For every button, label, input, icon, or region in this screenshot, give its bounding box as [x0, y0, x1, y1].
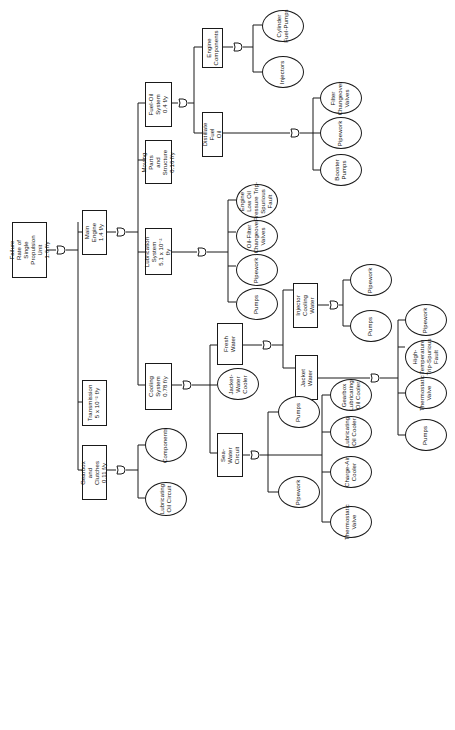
basic-event-injectors: Injectors: [262, 56, 304, 88]
injector-cooling-water-box: Injector Cooling Water: [293, 283, 318, 328]
jacket-water-box: Jacket Water: [295, 355, 318, 400]
basic-event-charge-air-cooler: Charge-Air Cooler: [330, 456, 372, 488]
or-gate-icon: [233, 42, 243, 52]
jacket-water-label: Jacket Water: [300, 367, 314, 388]
transmission-box: Transmission 5 x 10⁻² f/y: [82, 380, 107, 426]
engine-components-label: Engine Components: [206, 30, 220, 65]
sea-water-circuit-label: Sea-Water Circuit: [220, 443, 241, 467]
transmission-label: Transmission 5 x 10⁻² f/y: [88, 385, 102, 422]
moving-parts-box: Moving Parts and Structure 0.16 f/y: [145, 140, 172, 184]
basic-event-thermostatic-valve-jacket: Thermostatic Valve: [405, 377, 447, 409]
basic-event-lubricating-oil-cooler: Lubricating Oil Cooler: [330, 416, 372, 448]
basic-event-filter-changeover-valves: Filter Changeover Valves: [320, 82, 362, 114]
basic-event-pumps-jacket: Pumps: [405, 419, 447, 451]
or-gate-icon: [56, 245, 66, 255]
fresh-water-label: Fresh Water: [223, 332, 237, 356]
or-gate-icon: [182, 380, 192, 390]
gearbox-clutches-box: Gearbox and Clutches 0.11 f/y: [82, 445, 107, 500]
fresh-water-box: Fresh Water: [217, 323, 243, 365]
distillate-fuel-oil-box: Distillate Fuel Oil: [202, 112, 223, 157]
basic-event-pumps-injector: Pumps: [350, 310, 392, 342]
or-gate-icon: [197, 247, 207, 257]
or-gate-icon: [262, 340, 272, 350]
or-gate-icon: [116, 227, 126, 237]
fuel-oil-system-box: Fuel-Oil System 0.4 f/y: [145, 82, 172, 127]
cooling-system-label: Cooling System 0.78 f/y: [148, 374, 169, 399]
injector-cooling-water-label: Injector Cooling Water: [295, 294, 316, 317]
basic-event-lubricating-oil-circuit: Lubricating Oil Circuit: [145, 482, 187, 516]
basic-event-pumps-lub: Pumps: [236, 288, 278, 320]
basic-event-booster-pumps: Booster Pumps: [320, 154, 362, 186]
lubrication-system-label: Lubrication System 5.1 x 10⁻² f/y: [145, 236, 173, 266]
main-engine-box: Main Engine 1.4 f/y: [82, 210, 107, 255]
or-gate-icon: [250, 450, 260, 460]
fuel-oil-system-label: Fuel-Oil System 0.4 f/y: [148, 92, 169, 117]
basic-event-pipework-jacket: Pipework: [405, 304, 447, 336]
basic-event-thermostatic-valve-sea: Thermostatic Valve: [330, 506, 372, 538]
basic-event-components-gearbox: Components: [145, 428, 187, 462]
gearbox-clutches-label: Gearbox and Clutches 0.11 f/y: [81, 460, 109, 484]
or-gate-icon: [370, 373, 380, 383]
fault-tree-connectors: [0, 0, 455, 730]
basic-event-engine-low-oil-pressure: Engine Low Oil Pressure Trip- Spurious F…: [236, 184, 278, 218]
main-engine-label: Main Engine 1.4 f/y: [84, 221, 105, 244]
root-event-box: Failure Rate of Single Propulsion Unit 1…: [12, 222, 47, 278]
sea-water-circuit-box: Sea-Water Circuit: [217, 433, 243, 477]
basic-event-pipework-sea: Pipework: [278, 476, 320, 508]
basic-event-pipework-injector: Pipework: [350, 264, 392, 296]
basic-event-gearbox-lub-oil-cooler: Gearbox Lubricating Oil Cooler: [330, 379, 372, 411]
or-gate-icon: [116, 465, 126, 475]
distillate-fuel-oil-label: Distillate Fuel Oil: [202, 123, 223, 147]
basic-event-pumps-sea: Pumps: [278, 396, 320, 428]
or-gate-icon: [178, 98, 188, 108]
basic-event-jacket-water-cooler: Jacket- Water Cooler: [217, 368, 259, 400]
basic-event-high-temp-trip: High- Temperature Trip-Spurious Fault: [405, 340, 447, 374]
cooling-system-box: Cooling System 0.78 f/y: [145, 363, 172, 410]
or-gate-icon: [329, 300, 339, 310]
moving-parts-label: Moving Parts and Structure 0.16 f/y: [141, 149, 176, 174]
engine-components-box: Engine Components: [202, 28, 223, 68]
basic-event-pipework-lub: Pipework: [236, 254, 278, 286]
root-event-label: Failure Rate of Single Propulsion Unit 1…: [9, 234, 51, 267]
lubrication-system-box: Lubrication System 5.1 x 10⁻² f/y: [145, 228, 172, 275]
or-gate-icon: [290, 128, 300, 138]
basic-event-pipework-fuel: Pipework: [320, 117, 362, 149]
basic-event-cylinder-fuel-pumps: Cylinder Fuel-Pumps: [262, 10, 304, 42]
basic-event-oil-filter-changeover: Oil-Filter Changeover Valves: [236, 220, 278, 252]
